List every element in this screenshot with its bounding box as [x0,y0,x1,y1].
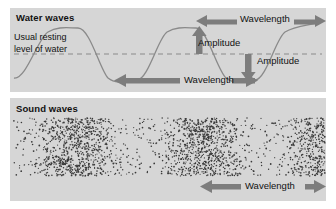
water-waves-title: Water waves [16,12,74,23]
wave-diagram: Water waves Sound waves Usual resting le… [0,0,336,209]
amplitude-up-label: Amplitude [198,38,240,48]
sound-waves-title: Sound waves [16,103,78,114]
wavelength-bottom-label: Wavelength [245,181,295,191]
resting-level-label-line1: Usual resting [14,32,67,44]
wavelength-middle-label: Wavelength [184,75,234,85]
amplitude-down-label: Amplitude [257,56,299,66]
resting-level-label-line2: level of water [14,44,67,56]
wavelength-top-label: Wavelength [240,14,290,24]
resting-level-label: Usual resting level of water [14,32,67,55]
